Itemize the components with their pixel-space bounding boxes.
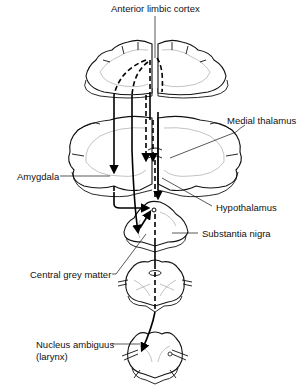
medulla-section [122,332,188,384]
label-amygdala: Amygdala [17,171,59,182]
pathway-diagram [0,0,300,390]
label-nucleus-ambiguus: Nucleus ambiguus [36,339,114,350]
label-central-grey-matter: Central grey matter [30,269,111,280]
label-anterior-limbic-cortex: Anterior limbic cortex [111,3,200,14]
label-nucleus-ambiguus-larynx: (larynx) [36,351,68,362]
cortex-section [85,40,228,98]
label-hypothalamus: Hypothalamus [216,202,277,213]
label-medial-thalamus: Medial thalamus [227,115,296,126]
label-substantia-nigra: Substantia nigra [202,228,271,239]
